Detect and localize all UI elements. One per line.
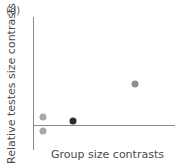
scatter-plot-panel: (d) Relative testes size contrasts Group… (0, 0, 182, 167)
y-axis-label: Relative testes size contrasts (0, 0, 22, 167)
data-point (39, 113, 46, 120)
data-point (69, 118, 76, 125)
data-point (132, 80, 139, 87)
data-point (39, 128, 46, 135)
plot-area (0, 0, 182, 167)
zero-reference-line (33, 125, 175, 126)
x-axis-label: Group size contrasts (33, 148, 182, 161)
y-axis-line (33, 17, 34, 150)
